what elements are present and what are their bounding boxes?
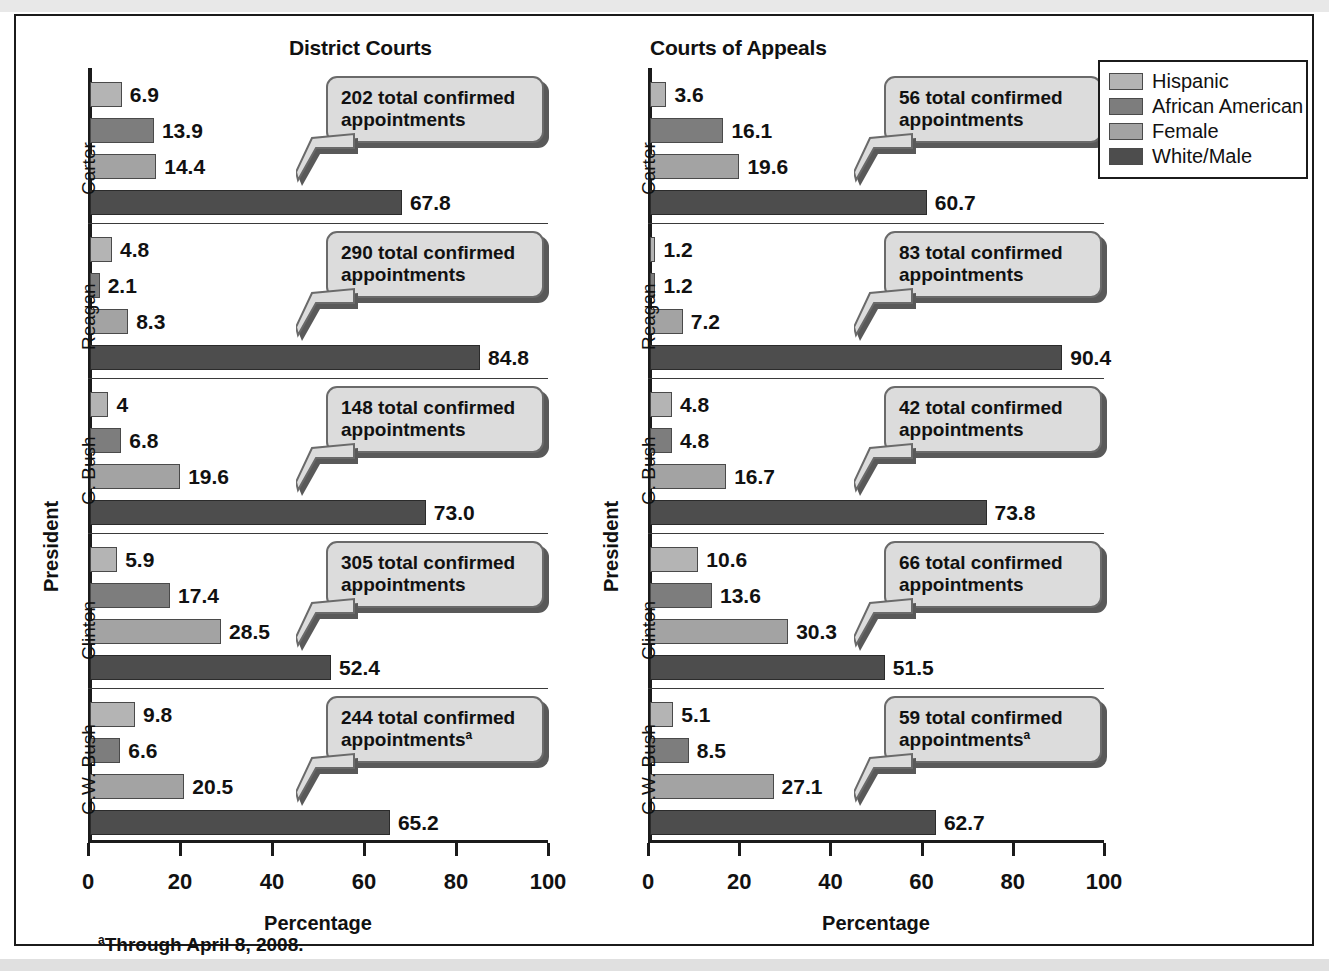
- bar-value-label: 16.1: [731, 118, 772, 143]
- legend-item: Hispanic: [1109, 69, 1297, 94]
- total-appointments-callout: 42 total confirmed appointments: [884, 386, 1102, 453]
- x-axis-tick-label: 0: [642, 869, 654, 895]
- x-axis-tick: [1012, 843, 1015, 856]
- bar-value-label: 28.5: [229, 619, 270, 644]
- bar-value-label: 73.0: [434, 500, 475, 525]
- group-separator: [88, 378, 548, 379]
- x-axis-tick: [271, 843, 274, 856]
- bar-female: [90, 464, 180, 489]
- footnote-marker: a: [98, 933, 105, 947]
- bar-white-male: [650, 500, 987, 525]
- x-axis-tick: [1103, 843, 1106, 856]
- y-axis-category-label: Clinton: [78, 601, 100, 660]
- bar-value-label: 60.7: [935, 190, 976, 215]
- bar-african-american: [650, 118, 723, 143]
- bar-value-label: 9.8: [143, 702, 172, 727]
- bar-white-male: [650, 345, 1062, 370]
- x-axis-line: [648, 840, 1104, 843]
- callout-text: 56 total confirmed appointments: [899, 87, 1063, 130]
- chart-figure: District Courts 020406080100Percentage6.…: [0, 0, 1329, 971]
- y-axis-category-label: Clinton: [638, 601, 660, 660]
- legend-label-hispanic: Hispanic: [1152, 70, 1229, 93]
- callout-text: 66 total confirmed appointments: [899, 552, 1063, 595]
- bottom-band: [0, 959, 1329, 971]
- footnote-text: Through April 8, 2008.: [105, 934, 304, 955]
- total-appointments-callout: 59 total confirmed appointmentsa: [884, 696, 1102, 763]
- callout-text: 83 total confirmed appointments: [899, 242, 1063, 285]
- legend-swatch-african-american: [1109, 98, 1143, 115]
- bar-value-label: 6.6: [128, 738, 157, 763]
- x-axis-tick: [738, 843, 741, 856]
- x-axis-tick-label: 80: [444, 869, 468, 895]
- y-axis-title-right: President: [600, 501, 623, 592]
- bar-hispanic: [650, 237, 655, 262]
- legend-label-white-male: White/Male: [1152, 145, 1252, 168]
- callout-text: 244 total confirmed appointments: [341, 707, 515, 750]
- bar-white-male: [90, 345, 480, 370]
- y-axis-category-label: G.W. Bush: [638, 724, 660, 815]
- group-separator: [88, 223, 548, 224]
- bar-african-american: [90, 583, 170, 608]
- bar-value-label: 16.7: [734, 464, 775, 489]
- footnote: aThrough April 8, 2008.: [98, 933, 304, 956]
- x-axis-tick-label: 40: [818, 869, 842, 895]
- panel-title-courts-of-appeals: Courts of Appeals: [650, 36, 827, 60]
- bar-white-male: [650, 810, 936, 835]
- y-axis-category-label: G. Bush: [78, 436, 100, 505]
- x-axis-title: Percentage: [264, 912, 372, 935]
- bar-value-label: 62.7: [944, 810, 985, 835]
- callout-text: 202 total confirmed appointments: [341, 87, 515, 130]
- x-axis-tick: [647, 843, 650, 856]
- bar-hispanic: [90, 82, 122, 107]
- bar-female: [650, 774, 774, 799]
- bar-white-male: [90, 500, 426, 525]
- bar-value-label: 51.5: [893, 655, 934, 680]
- bar-value-label: 67.8: [410, 190, 451, 215]
- total-appointments-callout: 202 total confirmed appointments: [326, 76, 544, 143]
- bar-value-label: 19.6: [747, 154, 788, 179]
- plot-area-district-courts: 020406080100Percentage6.913.914.467.8Car…: [88, 68, 548, 843]
- legend-item: White/Male: [1109, 144, 1297, 169]
- legend-item: African American: [1109, 94, 1297, 119]
- bar-value-label: 1.2: [663, 273, 692, 298]
- legend-item: Female: [1109, 119, 1297, 144]
- bar-value-label: 27.1: [782, 774, 823, 799]
- bar-value-label: 84.8: [488, 345, 529, 370]
- bar-hispanic: [650, 82, 666, 107]
- x-axis-tick-label: 100: [530, 869, 567, 895]
- bar-hispanic: [90, 392, 108, 417]
- group-separator: [648, 533, 1104, 534]
- bar-african-american: [90, 118, 154, 143]
- bar-white-male: [650, 655, 885, 680]
- group-separator: [88, 688, 548, 689]
- legend-swatch-white-male: [1109, 148, 1143, 165]
- x-axis-tick-label: 80: [1001, 869, 1025, 895]
- x-axis-tick-label: 0: [82, 869, 94, 895]
- legend-swatch-hispanic: [1109, 73, 1143, 90]
- chart-frame: District Courts 020406080100Percentage6.…: [14, 14, 1314, 946]
- total-appointments-callout: 305 total confirmed appointments: [326, 541, 544, 608]
- total-appointments-callout: 56 total confirmed appointments: [884, 76, 1102, 143]
- bar-white-male: [90, 190, 402, 215]
- bar-hispanic: [650, 547, 698, 572]
- group-separator: [648, 688, 1104, 689]
- y-axis-category-label: Reagan: [638, 283, 660, 350]
- bar-value-label: 10.6: [706, 547, 747, 572]
- group-separator: [648, 378, 1104, 379]
- total-appointments-callout: 83 total confirmed appointments: [884, 231, 1102, 298]
- bar-hispanic: [90, 547, 117, 572]
- bar-value-label: 13.9: [162, 118, 203, 143]
- bar-female: [650, 154, 739, 179]
- x-axis-tick: [547, 843, 550, 856]
- legend-swatch-female: [1109, 123, 1143, 140]
- callout-text: 59 total confirmed appointments: [899, 707, 1063, 750]
- total-appointments-callout: 66 total confirmed appointments: [884, 541, 1102, 608]
- legend-label-female: Female: [1152, 120, 1219, 143]
- x-axis-tick-label: 60: [909, 869, 933, 895]
- x-axis-tick: [921, 843, 924, 856]
- y-axis-title-left: President: [40, 501, 63, 592]
- bar-female: [650, 619, 788, 644]
- total-appointments-callout: 290 total confirmed appointments: [326, 231, 544, 298]
- panel-district-courts: District Courts 020406080100Percentage6.…: [16, 32, 666, 932]
- bar-value-label: 20.5: [192, 774, 233, 799]
